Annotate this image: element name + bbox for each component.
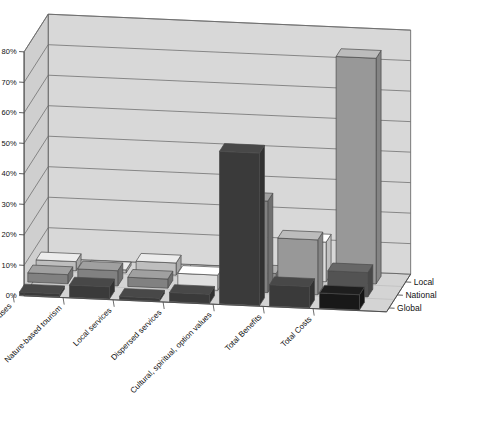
y-tick-label-60: 60% (2, 108, 17, 117)
x-tick-4 (213, 304, 214, 311)
bar-face-front (70, 285, 110, 299)
bar-global-1 (70, 277, 115, 299)
bar-local-6 (336, 49, 381, 284)
bar-national-0 (28, 265, 73, 284)
bar-face-front (336, 57, 376, 284)
y-axis: 0%10%20%30%40%50%60%70%80% (2, 47, 25, 300)
x-tick-label-5: Total Benefits (223, 312, 263, 352)
y-tick-label-40: 40% (2, 169, 17, 178)
bar-national-2 (128, 269, 173, 288)
y-tick-label-70: 70% (2, 78, 17, 87)
x-tick-label-1: Nature-based tourism (3, 303, 64, 364)
bar-face-top (120, 289, 165, 299)
bar-face-top (128, 269, 173, 279)
bar-face-top (70, 277, 115, 287)
bar-face-top (136, 253, 181, 263)
chart-canvas: 0%10%20%30%40%50%60%70%80% Consumptive u… (0, 0, 491, 425)
bar-face-top (170, 285, 215, 295)
bar-face-top (270, 277, 315, 287)
x-tick-6 (313, 309, 314, 316)
bar-face-top (178, 266, 223, 276)
z-tick-label-national: National (405, 290, 436, 300)
y-tick-label-80: 80% (2, 47, 17, 56)
x-tick-label-6: Total Costs (279, 315, 313, 349)
bar-side-right (260, 145, 265, 305)
bar-side-right (318, 232, 323, 295)
bar-face-top (336, 49, 381, 59)
bar-global-0 (20, 284, 65, 297)
bar-side-right (268, 193, 273, 292)
chart-3d-bar: 0%10%20%30%40%50%60%70%80% Consumptive u… (0, 0, 491, 425)
bar-face-top (220, 144, 265, 154)
bar-face-top (28, 265, 73, 275)
bar-face-top (278, 230, 323, 240)
x-tick-label-2: Local services (71, 306, 113, 348)
y-tick-label-20: 20% (2, 230, 17, 239)
x-tick-label-0: Consumptive uses (0, 301, 14, 354)
y-tick-label-0: 0% (6, 291, 17, 300)
bar-face-front (270, 285, 310, 308)
x-tick-1 (63, 298, 64, 305)
bar-global-6 (320, 285, 365, 310)
x-tick-label-3: Dispersed services (109, 308, 163, 362)
x-axis: Consumptive usesNature-based tourismLoca… (0, 295, 387, 395)
bar-face-top (78, 261, 123, 271)
x-tick-3 (163, 302, 164, 309)
bar-global-2 (120, 289, 165, 302)
bar-face-top (36, 252, 81, 262)
x-tick-2 (113, 300, 114, 307)
bar-global-4 (220, 144, 265, 306)
bar-face-front (320, 293, 360, 310)
bar-global-3 (170, 285, 215, 304)
x-tick-5 (263, 306, 264, 313)
bar-global-5 (270, 277, 315, 308)
z-tick-label-global: Global (397, 303, 422, 313)
bar-face-top (20, 284, 65, 294)
bar-face-top (328, 263, 373, 273)
bar-face-top (320, 285, 365, 295)
y-tick-label-30: 30% (2, 200, 17, 209)
bar-side-right (376, 50, 381, 284)
bar-face-front (220, 151, 260, 305)
z-tick-label-local: Local (414, 277, 434, 287)
y-tick-label-50: 50% (2, 139, 17, 148)
y-tick-label-10: 10% (2, 261, 17, 270)
